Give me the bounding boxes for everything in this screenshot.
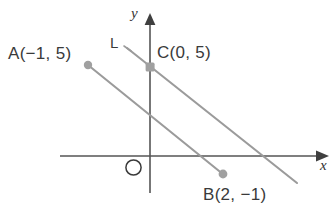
y-axis [145,13,156,193]
line-ab [88,65,224,175]
x-axis-label: x [320,158,327,173]
line-l-label: L [110,35,119,50]
point-c-marker [146,63,155,72]
point-b-marker [219,170,228,179]
point-c-label: C(0, 5) [157,44,211,61]
y-axis-label: y [131,6,138,21]
point-a-label: A(−1, 5) [8,45,71,62]
graph-canvas [0,0,336,220]
point-a-marker [84,61,92,69]
line-l-leader [124,46,131,51]
coordinate-plane-figure: A(−1, 5) C(0, 5) B(2, −1) L x y [0,0,336,220]
origin-circle-glyph [126,160,141,175]
point-b-label: B(2, −1) [203,186,266,203]
